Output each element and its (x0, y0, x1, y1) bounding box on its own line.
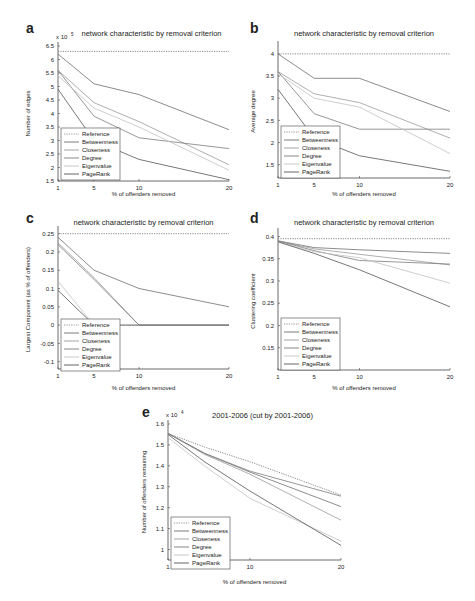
x-tick-label: 20 (226, 373, 233, 379)
series-reference (168, 433, 341, 495)
legend-label: Reference (82, 131, 110, 137)
x-tick-label: 1 (276, 374, 280, 380)
legend-label: Reference (82, 322, 110, 328)
y-tick-label: 2.5 (266, 118, 275, 124)
panel-label: d (250, 210, 259, 226)
x-axis-label: % of offenders removed (332, 385, 396, 391)
y-tick-label: 0.2 (46, 249, 55, 255)
legend-label: Betweenness (192, 528, 228, 534)
x-tick-label: 20 (447, 374, 454, 380)
y-tick-label: 1.6 (156, 421, 165, 427)
y-tick-label: 5.5 (46, 70, 55, 76)
y-tick-label: 0.2 (266, 323, 275, 329)
panel-c: cnetwork characteristic by removal crite… (25, 210, 233, 391)
series-betweenness (168, 433, 341, 506)
y-tick-label: 2.5 (46, 151, 55, 157)
x-tick-label: 5 (92, 373, 96, 379)
x-tick-label: 10 (356, 374, 363, 380)
y-tick-label: 2 (271, 140, 275, 146)
y-tick-label: 1.4 (156, 463, 165, 469)
chart-title: 2001-2006 (cut by 2001-2006) (212, 411, 313, 420)
x-tick-label: 10 (247, 564, 254, 570)
y-axis-label: Largest Component (as % of offenders) (25, 247, 31, 352)
y-axis-label: Number of edges (25, 90, 31, 136)
y-tick-label: 6 (51, 57, 55, 63)
legend-label: Reference (302, 129, 330, 135)
series-betweenness (278, 241, 450, 254)
legend-label: Betweenness (82, 330, 118, 336)
x-tick-label: 1 (166, 564, 170, 570)
legend-label: Reference (302, 321, 330, 327)
x-axis-label: % of offenders removed (223, 579, 287, 585)
legend-label: Closeness (82, 338, 110, 344)
legend: ReferenceBetweennessClosenessDegreeEigen… (281, 126, 340, 178)
y-axis-label: Average degree (250, 90, 256, 133)
figure: anetwork characteristic by removal crite… (0, 0, 475, 601)
chart-title: network characteristic by removal criter… (73, 218, 213, 227)
series-closeness (168, 433, 341, 520)
y-tick-label: 1.3 (156, 484, 165, 490)
y-tick-label: -0.05 (40, 341, 54, 347)
legend-label: Degree (302, 153, 322, 159)
legend: ReferenceBetweennessClosenessDegreeEigen… (281, 318, 340, 370)
panel-a: anetwork characteristic by removal crite… (25, 20, 233, 197)
x-tick-label: 5 (92, 185, 96, 191)
x-tick-label: 5 (313, 182, 317, 188)
series-degree (168, 433, 341, 496)
legend-label: Degree (192, 544, 212, 550)
x-tick-label: 10 (356, 182, 363, 188)
legend: ReferenceBetweennessClosenessDegreeEigen… (171, 517, 230, 569)
series-eigenvalue (58, 281, 229, 325)
legend-label: Betweenness (82, 139, 118, 145)
legend-label: PageRank (82, 171, 111, 177)
legend-label: Degree (82, 346, 102, 352)
panel-label: c (26, 210, 34, 226)
legend-label: Betweenness (302, 329, 338, 335)
y-tick-label: 1.5 (46, 178, 55, 184)
y-tick-label: 0.25 (262, 300, 274, 306)
panel-e: e2001-2006 (cut by 2001-2006)x 10411.11.… (141, 404, 345, 585)
y-tick-label: 2 (51, 165, 55, 171)
chart-title: network characteristic by removal criter… (294, 218, 434, 227)
series-betweenness (58, 237, 229, 306)
legend-label: Eigenvalue (82, 354, 112, 360)
panel-label: e (142, 404, 150, 420)
series-betweenness (278, 54, 450, 112)
y-tick-label: 0.15 (262, 345, 274, 351)
y-multiplier: x 10 (56, 34, 68, 40)
legend-label: Eigenvalue (302, 353, 332, 359)
y-tick-label: 1.5 (266, 162, 275, 168)
y-tick-label: 0.05 (42, 304, 54, 310)
y-tick-label: 1.5 (156, 442, 165, 448)
y-tick-label: 3.5 (46, 124, 55, 130)
legend-label: Eigenvalue (302, 161, 332, 167)
y-tick-label: 0.4 (266, 234, 275, 240)
y-tick-label: -0.1 (44, 359, 55, 365)
y-tick-label: 0.1 (46, 286, 55, 292)
legend: ReferenceBetweennessClosenessDegreeEigen… (61, 319, 120, 371)
legend-label: Betweenness (302, 137, 338, 143)
series-betweenness (58, 54, 229, 130)
x-axis-label: % of offenders removed (332, 191, 396, 197)
y-tick-label: 5 (51, 84, 55, 90)
y-tick-label: 0.3 (266, 278, 275, 284)
y-tick-label: 3 (271, 95, 275, 101)
x-tick-label: 1 (276, 182, 280, 188)
x-tick-label: 5 (313, 374, 317, 380)
y-tick-label: 3 (51, 138, 55, 144)
y-axis-label: Number of offenders remaining (141, 451, 147, 534)
panel-label: a (26, 20, 34, 36)
x-tick-label: 20 (338, 564, 345, 570)
y-tick-label: 1 (161, 547, 165, 553)
y-tick-label: 4.5 (46, 97, 55, 103)
chart-title: network characteristic by removal criter… (81, 29, 221, 38)
y-multiplier: x 10 (166, 412, 178, 418)
legend-label: Closeness (192, 536, 220, 542)
x-tick-label: 20 (226, 185, 233, 191)
y-axis-label: Clustering coefficient (250, 273, 256, 329)
legend-label: Eigenvalue (192, 552, 222, 558)
legend-label: PageRank (192, 560, 221, 566)
y-tick-label: 0 (51, 322, 55, 328)
y-tick-label: 0.15 (42, 267, 54, 273)
x-tick-label: 20 (447, 182, 454, 188)
